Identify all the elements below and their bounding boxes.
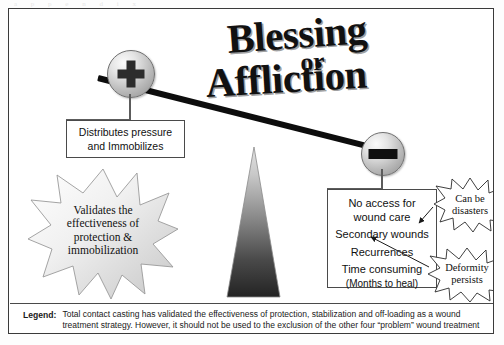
- drawback-line-4: Recurrences: [328, 246, 436, 260]
- deformity-starburst: Deformity persists: [427, 247, 494, 303]
- drawback-line-3: Secondary wounds: [328, 228, 436, 242]
- slide-canvas: Blessing or Affliction Distributes p: [8, 8, 494, 334]
- disasters-starburst: Can be disasters: [433, 177, 494, 233]
- triangle-fulcrum-icon: [204, 147, 304, 299]
- legend-divider: [10, 303, 493, 304]
- validates-starburst: Validates the effectiveness of protectio…: [27, 167, 179, 301]
- title-line-affliction: Affliction: [204, 50, 368, 107]
- legend-label: Legend:: [23, 309, 62, 334]
- benefit-line-1: Distributes pressure: [79, 126, 172, 138]
- connector-plus-to-benefit-box: [129, 94, 131, 120]
- page-title: Blessing or Affliction: [205, 11, 494, 103]
- benefit-textbox: Distributes pressure and Immobilizes: [66, 120, 185, 158]
- drawback-line-2: wound care: [328, 211, 436, 225]
- plus-glyph-icon: [118, 61, 145, 88]
- connector-minus-to-drawbacks-box: [381, 169, 383, 189]
- plus-circle-icon: [107, 50, 155, 98]
- title-line-or: or: [299, 47, 325, 78]
- drawback-line-5: Time consuming: [328, 263, 436, 277]
- drawback-line-1: No access for: [328, 197, 436, 211]
- drawbacks-textbox: No access for wound care Secondary wound…: [327, 189, 437, 288]
- drawback-line-6: (Months to heal): [328, 277, 436, 291]
- benefit-line-2: and Immobilizes: [88, 140, 164, 152]
- legend: Legend: Total contact casting has valida…: [9, 309, 493, 334]
- title-line-blessing: Blessing: [225, 8, 368, 63]
- minus-circle-icon: [361, 132, 405, 176]
- scan-artifact-text: a p p e n d i x: [0, 0, 504, 8]
- legend-text: Total contact casting has validated the …: [62, 309, 481, 334]
- minus-glyph-icon: [369, 149, 398, 159]
